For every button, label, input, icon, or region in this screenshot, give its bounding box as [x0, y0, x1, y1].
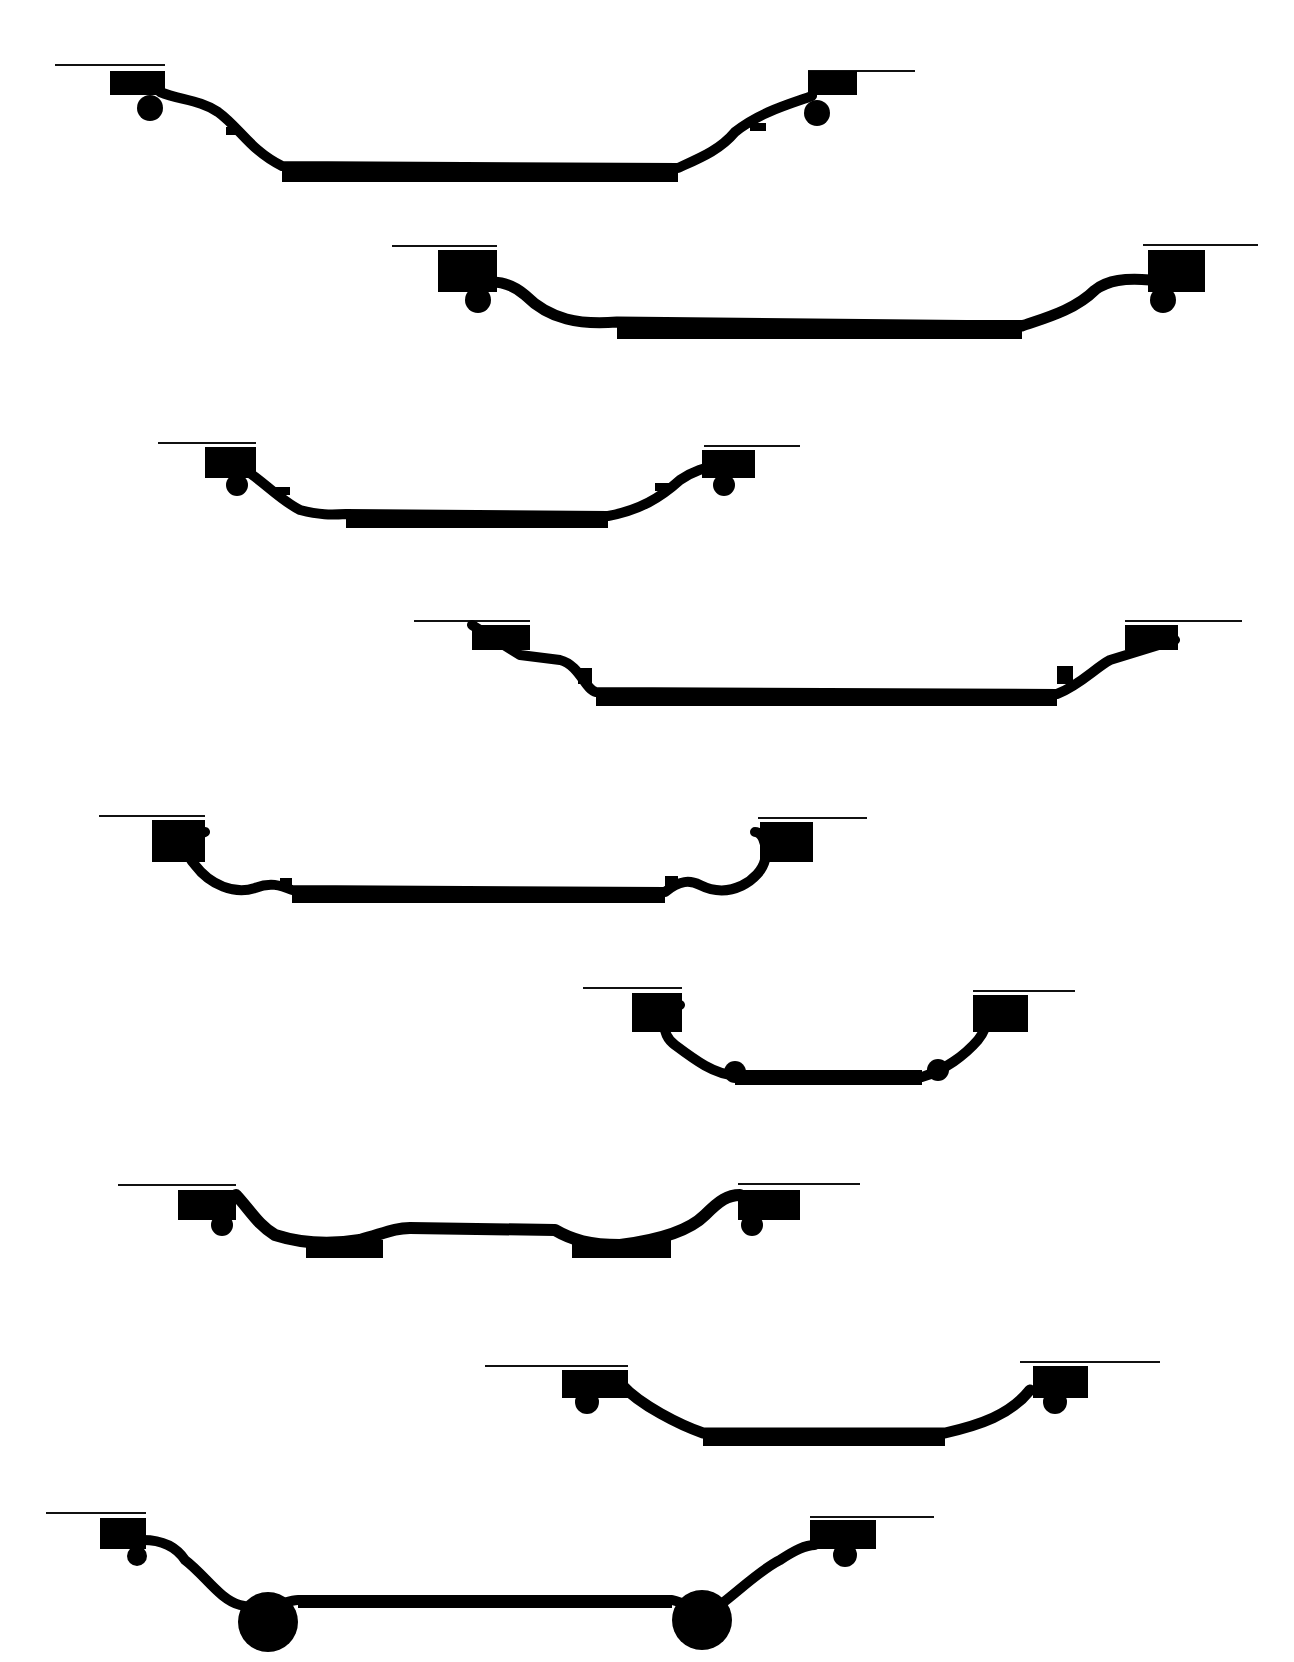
rim-contour [160, 92, 812, 168]
bead-seat [1150, 287, 1176, 313]
bead-seat [1043, 1390, 1067, 1414]
rim-profile-5 [99, 816, 867, 903]
rim-flange [100, 1518, 146, 1549]
rim-contour [236, 1195, 740, 1245]
rim-profile-8 [485, 1362, 1160, 1446]
bead-seat [465, 287, 491, 313]
rim-flange [808, 71, 857, 95]
rim-profile-9 [46, 1513, 934, 1652]
rim-contour [188, 832, 765, 892]
rim-contour [245, 466, 715, 516]
ledge-step [1057, 666, 1073, 684]
rim-profile-1 [55, 65, 915, 182]
bead-seat [137, 95, 163, 121]
bead-seat [211, 1214, 233, 1236]
rim-contour [622, 1385, 1030, 1433]
rim-profile-4 [414, 621, 1242, 706]
rim-contour [470, 279, 1150, 326]
rim-profile-3 [158, 443, 800, 528]
bead-seat [575, 1390, 599, 1414]
rim-profile-7 [118, 1184, 860, 1258]
bead-seat [804, 100, 830, 126]
bead-seat [741, 1214, 763, 1236]
rim-flange [1148, 250, 1205, 292]
rim-profiles-figure [0, 0, 1294, 1662]
bead-seat [833, 1543, 857, 1567]
rim-contour [472, 625, 1175, 694]
bead-seat [226, 474, 248, 496]
rim-contour [664, 1005, 986, 1077]
rim-profile-6 [583, 988, 1075, 1085]
bead-seat [713, 474, 735, 496]
bead-seat [127, 1546, 147, 1566]
rim-profile-2 [392, 245, 1258, 339]
profiles-layer [46, 65, 1258, 1652]
